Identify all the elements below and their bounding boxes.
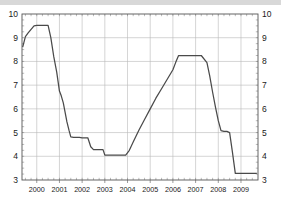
svg-text:2003: 2003 [97, 185, 113, 194]
svg-text:6: 6 [13, 104, 18, 114]
plot-frame [22, 14, 258, 180]
chart-screenshot: 345678910 345678910 20002001200220032004… [0, 0, 281, 206]
left-axis-tick-labels: 345678910 [9, 9, 19, 185]
year-axis-tick-labels: 2000200120022003200420052006200720082009 [29, 185, 249, 194]
svg-text:7: 7 [13, 80, 18, 90]
svg-text:6: 6 [262, 104, 267, 114]
svg-text:2001: 2001 [51, 185, 67, 194]
chart-svg: 345678910 345678910 20002001200220032004… [0, 0, 281, 206]
minor-ticks [22, 14, 258, 180]
svg-text:4: 4 [262, 151, 267, 161]
svg-text:2002: 2002 [74, 185, 90, 194]
svg-text:2009: 2009 [233, 185, 249, 194]
svg-text:2006: 2006 [165, 185, 181, 194]
svg-text:2004: 2004 [120, 185, 136, 194]
svg-text:5: 5 [13, 128, 18, 138]
svg-text:8: 8 [262, 56, 267, 66]
svg-text:10: 10 [262, 9, 272, 19]
svg-text:5: 5 [262, 128, 267, 138]
data-line-rate [23, 25, 257, 173]
svg-text:7: 7 [262, 80, 267, 90]
svg-text:10: 10 [9, 9, 19, 19]
svg-text:9: 9 [262, 33, 267, 43]
svg-text:3: 3 [13, 175, 18, 185]
svg-text:2000: 2000 [29, 185, 45, 194]
gridlines [22, 14, 258, 180]
line-chart: 345678910 345678910 20002001200220032004… [0, 0, 281, 206]
svg-text:3: 3 [262, 175, 267, 185]
svg-text:2008: 2008 [210, 185, 226, 194]
svg-text:9: 9 [13, 33, 18, 43]
svg-text:4: 4 [13, 151, 18, 161]
right-axis-tick-labels: 345678910 [262, 9, 272, 185]
svg-text:8: 8 [13, 56, 18, 66]
svg-text:2007: 2007 [188, 185, 204, 194]
svg-text:2005: 2005 [142, 185, 158, 194]
